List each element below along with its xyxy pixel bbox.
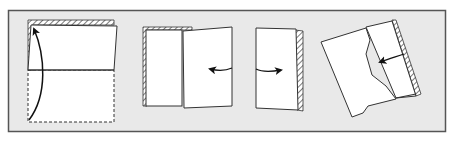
folding-diagram: [0, 0, 457, 142]
step-1: [28, 20, 117, 122]
step-3: [256, 28, 303, 111]
step-2-left-panel: [146, 30, 182, 106]
step-2-right-panel: [183, 27, 232, 108]
step-2: [143, 27, 232, 108]
step-3-panel: [256, 28, 298, 110]
step-1-folded-panel: [28, 25, 117, 70]
